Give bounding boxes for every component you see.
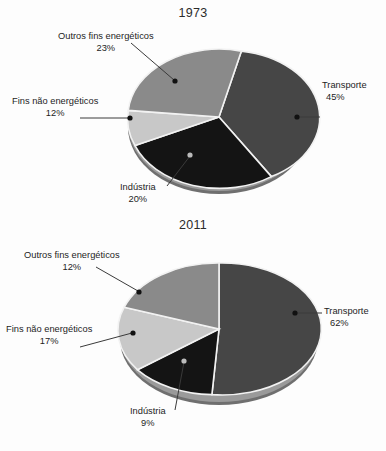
marker-1973-outros bbox=[172, 78, 177, 83]
callout-value: 17% bbox=[6, 336, 92, 348]
marker-2011-fins bbox=[130, 330, 135, 335]
callout-label: Fins não energéticos bbox=[6, 324, 92, 334]
marker-1973-fins bbox=[127, 115, 132, 120]
callout-label: Transporte bbox=[322, 80, 367, 90]
callout-label: Fins não energéticos bbox=[12, 96, 98, 106]
callout-1973-industria: Indústria 20% bbox=[120, 182, 156, 205]
callout-value: 20% bbox=[120, 194, 156, 206]
chart-1973: 1973 bbox=[0, 0, 386, 218]
marker-1973-transporte bbox=[294, 114, 299, 119]
callout-value: 12% bbox=[12, 108, 98, 120]
callout-2011-industria: Indústria 9% bbox=[130, 406, 166, 429]
marker-1973-industria bbox=[187, 152, 192, 157]
callout-value: 9% bbox=[130, 418, 166, 430]
callout-2011-fins-nao-energeticos: Fins não energéticos 17% bbox=[6, 324, 92, 347]
callout-value: 45% bbox=[322, 92, 367, 104]
callout-1973-transporte: Transporte 45% bbox=[322, 80, 367, 103]
marker-2011-outros bbox=[136, 289, 141, 294]
marker-2011-industria bbox=[181, 358, 186, 363]
callout-2011-outros-fins-energeticos: Outros fins energéticos 12% bbox=[24, 250, 120, 273]
callout-value: 23% bbox=[58, 43, 154, 55]
callout-label: Indústria bbox=[130, 406, 166, 416]
callout-value: 12% bbox=[24, 262, 120, 274]
pie-charts-page: 1973 bbox=[0, 0, 386, 451]
callout-label: Outros fins energéticos bbox=[24, 250, 120, 260]
callout-1973-fins-nao-energeticos: Fins não energéticos 12% bbox=[12, 96, 98, 119]
callout-label: Indústria bbox=[120, 182, 156, 192]
callout-1973-outros-fins-energeticos: Outros fins energéticos 23% bbox=[58, 31, 154, 54]
marker-2011-transporte bbox=[292, 310, 297, 315]
callout-2011-transporte: Transporte 62% bbox=[324, 306, 369, 329]
callout-label: Outros fins energéticos bbox=[58, 31, 154, 41]
chart-2011: 2011 bbox=[0, 214, 386, 451]
callout-value: 62% bbox=[324, 318, 369, 330]
callout-label: Transporte bbox=[324, 306, 369, 316]
slice-2011-transporte bbox=[212, 263, 321, 395]
